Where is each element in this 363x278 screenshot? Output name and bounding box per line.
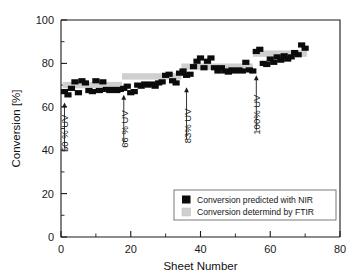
chart-figure: 020406080100020406080Sheet NumberConvers… [0,0,363,278]
y-tick-label: 20 [42,188,54,200]
nir-data-point [200,65,207,70]
y-tick-label: 80 [42,57,54,69]
nir-data-point [99,79,106,84]
nir-data-point [302,46,309,51]
annotation-label: 66 % UV [119,110,130,148]
nir-data-point [92,78,99,83]
x-tick-label: 80 [334,243,346,255]
nir-data-point [242,60,249,65]
nir-data-point [270,60,277,65]
annotation-label: 83% UV [182,108,193,144]
nir-data-point [124,84,131,89]
nir-data-point [89,89,96,94]
legend-label-ftir: Conversion determind by FTIR [197,207,314,217]
nir-data-point [159,79,166,84]
nir-data-point [71,79,78,84]
y-axis-title: Conversion [%] [10,90,22,168]
annotation-arrow-head [62,102,67,107]
annotation-arrow-head [184,87,189,92]
y-tick-label: 100 [36,14,54,26]
nir-data-point [166,72,173,77]
nir-data-point [68,86,75,91]
nir-data-point [249,68,256,73]
x-tick-label: 40 [194,243,206,255]
x-tick-label: 0 [58,243,64,255]
legend-swatch-nir [182,196,191,204]
x-tick-label: 20 [125,243,137,255]
nir-data-point [190,64,197,69]
y-tick-label: 0 [48,231,54,243]
x-tick-label: 60 [264,243,276,255]
nir-data-point [186,72,193,77]
nir-data-point [256,47,263,52]
x-axis-title: Sheet Number [163,260,237,272]
nir-data-point [96,88,103,93]
legend-label-nir: Conversion predicted with NIR [197,195,313,205]
annotation-arrow-head [254,75,259,80]
annotation-label: 100% UV [251,94,262,135]
nir-data-point [75,90,82,95]
nir-data-point [207,55,214,60]
nir-data-point [82,80,89,85]
nir-data-point [197,55,204,60]
nir-data-point [239,68,246,73]
legend-swatch-ftir [182,208,191,216]
nir-data-point [172,80,179,85]
conversion-scatter-chart: 020406080100020406080Sheet NumberConvers… [0,0,363,278]
annotation-arrow-head [121,95,126,100]
y-tick-label: 60 [42,101,54,113]
annotation-label: 50 % UV [59,114,70,152]
y-tick-label: 40 [42,144,54,156]
nir-data-point [131,89,138,94]
nir-data-point [64,92,71,97]
nir-data-point [263,62,270,67]
nir-data-point [295,52,302,57]
